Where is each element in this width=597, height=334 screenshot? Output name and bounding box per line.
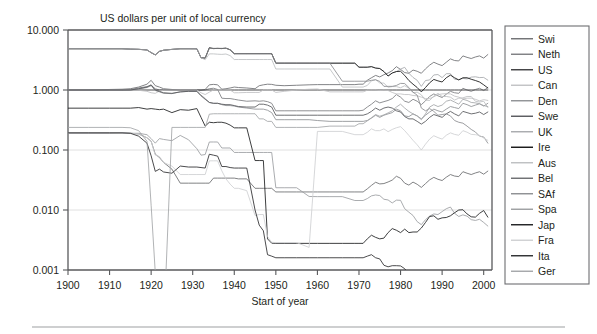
series-line-fra [68,127,488,248]
y-tick-label: 0.001 [33,264,59,276]
legend-label: Swe [538,110,559,122]
legend-label: Ger [538,265,556,277]
y-tick-label: 0.100 [33,144,59,156]
x-axis-label: Start of year [251,295,309,307]
legend-label: Ire [538,141,550,153]
y-tick-label: 1.000 [33,84,59,96]
legend-label: Jap [538,219,555,231]
series-line-ita [68,133,488,289]
x-tick-label: 1960 [306,279,330,291]
figure-container: 10.0001.0000.1000.0100.001 1900191019201… [0,0,597,334]
series-line-bel [68,133,488,192]
chart-title: US dollars per unit of local currency [100,12,266,24]
series-line-saf [68,48,488,143]
x-tick-label: 1990 [430,279,454,291]
legend-label: Bel [538,172,553,184]
legend[interactable]: SwiNethUSCanDenSweUKIreAusBelSAfSpaJapFr… [505,26,589,284]
legend-label: Den [538,95,557,107]
exchange-rate-line-chart: 10.0001.0000.1000.0100.001 1900191019201… [0,0,597,334]
legend-label: Can [538,79,557,91]
legend-label: Spa [538,203,557,215]
y-tick-label: 0.010 [33,204,59,216]
x-tick-label: 1940 [223,279,247,291]
series-line-uk [68,48,488,87]
x-tick-label: 2000 [472,279,496,291]
x-tick-label: 1930 [181,279,205,291]
series-line-spa [68,133,488,226]
y-axis-tick-labels: 10.0001.0000.1000.0100.001 [27,24,59,276]
tick-marks [63,30,484,275]
x-tick-label: 1900 [56,279,80,291]
series-line-den [68,86,488,122]
x-axis-tick-labels: 1900191019201930194019501960197019801990… [56,279,495,291]
x-tick-label: 1950 [264,279,288,291]
legend-label: US [538,64,553,76]
x-tick-label: 1910 [98,279,122,291]
legend-label: Swi [538,33,555,45]
x-tick-label: 1970 [347,279,371,291]
legend-label: Ita [538,250,550,262]
legend-label: SAf [538,188,555,200]
legend-label: Neth [538,48,560,60]
legend-label: Aus [538,157,556,169]
x-tick-label: 1980 [389,279,413,291]
legend-label: UK [538,126,553,138]
y-tick-label: 10.000 [27,24,59,36]
x-tick-label: 1920 [139,279,163,291]
series-line-swi [68,55,488,91]
legend-label: Fra [538,234,554,246]
series-line-aus [68,49,488,108]
series-line-swe [68,85,488,124]
